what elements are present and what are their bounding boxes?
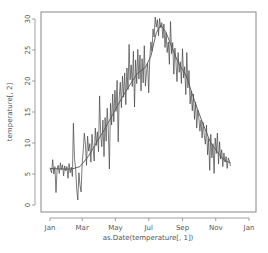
y-tick-label: 0 [24, 203, 32, 207]
x-tick-label: Nov [209, 224, 223, 232]
chart-container: 051015202530 JanMarMayJulSepNovJan as.Da… [0, 0, 268, 253]
y-tick-label: 25 [24, 46, 32, 55]
series-group [50, 17, 231, 200]
y-tick-label: 15 [24, 108, 32, 117]
y-tick-label: 5 [24, 172, 32, 176]
daily-temperature-line [50, 17, 231, 200]
x-tick-label: Jan [243, 224, 255, 232]
y-axis-label: temperature[, 2] [6, 83, 14, 142]
x-tick-label: May [108, 224, 122, 232]
x-tick-label: Jul [143, 224, 153, 232]
y-tick-label: 10 [24, 139, 32, 148]
plot-frame [41, 12, 256, 212]
x-tick-label: Jan [44, 224, 56, 232]
y-tick-label: 20 [24, 77, 32, 86]
temperature-chart: 051015202530 JanMarMayJulSepNovJan as.Da… [0, 0, 268, 253]
smoothed-trend-line [50, 25, 231, 169]
x-axis: JanMarMayJulSepNovJan [44, 218, 255, 232]
y-axis: 051015202530 [24, 15, 35, 208]
y-tick-label: 30 [24, 15, 32, 24]
x-tick-label: Sep [176, 224, 190, 232]
x-axis-label: as.Date(temperature[, 1]) [103, 234, 194, 242]
x-tick-label: Mar [76, 224, 89, 232]
